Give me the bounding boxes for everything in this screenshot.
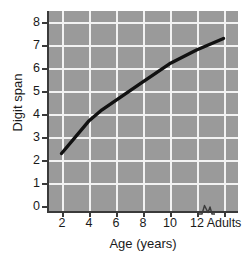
x-axis-title: Age (years) (48, 236, 238, 251)
y-tick-mark (42, 91, 47, 93)
y-tick-label-0: 0 (20, 200, 40, 212)
y-tick-mark (42, 137, 47, 139)
x-tick-label-2: 2 (48, 217, 76, 230)
x-tick-label-6: 6 (102, 217, 130, 230)
x-tick-label-adults: Adults (198, 217, 250, 230)
y-axis-line (47, 11, 49, 212)
x-tick-label-8: 8 (129, 217, 157, 230)
y-tick-mark (42, 206, 47, 208)
y-axis-title: Digit span (10, 43, 25, 163)
y-tick-label-1: 1 (20, 177, 40, 189)
y-tick-label-8: 8 (20, 16, 40, 28)
chart-figure: 8 7 6 5 4 3 2 1 0 2 4 6 8 10 12 Adults D… (0, 0, 252, 258)
y-tick-mark (42, 183, 47, 185)
data-series-line (48, 11, 238, 211)
x-tick-label-4: 4 (75, 217, 103, 230)
y-tick-mark (42, 68, 47, 70)
x-tick-label-10: 10 (156, 217, 184, 230)
y-tick-mark (42, 22, 47, 24)
y-tick-mark (42, 160, 47, 162)
y-tick-mark (42, 114, 47, 116)
y-tick-mark (42, 45, 47, 47)
